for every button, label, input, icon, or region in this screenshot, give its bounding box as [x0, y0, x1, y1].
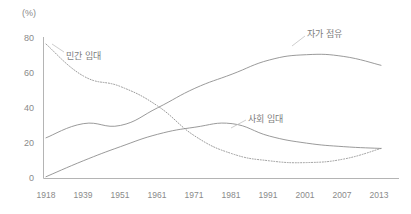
chart-plot-area	[0, 0, 411, 214]
leader-private-rental	[52, 44, 64, 52]
series-line-0	[46, 44, 381, 163]
series-line-1	[46, 54, 381, 138]
series-line-2	[46, 123, 381, 177]
data-series-group	[46, 36, 381, 177]
chart-container: (%) 80 60 40 20 0 1918 1939 1951 1961 19…	[0, 0, 411, 214]
leader-owner-occupied	[292, 36, 305, 46]
axis-lines	[44, 37, 400, 179]
